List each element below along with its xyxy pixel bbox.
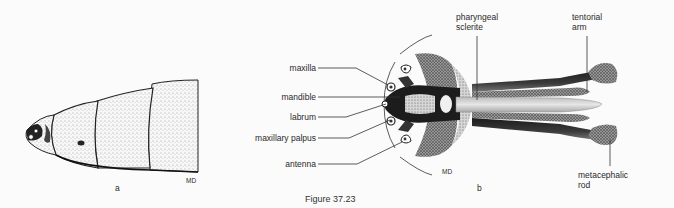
label-pharyngeal-sclerite: pharyngeal sclerite xyxy=(456,12,498,32)
cephalopharyngeal-rods-drawing xyxy=(456,63,617,145)
panel-a-signature: MD xyxy=(186,176,196,186)
label-tentorial-arm: tentorial arm xyxy=(572,12,602,32)
label-maxilla: maxilla xyxy=(290,63,316,73)
label-metacephalic-rod: metacephalic rod xyxy=(578,170,628,190)
panel-b-signature: MD xyxy=(442,167,452,177)
label-antenna: antenna xyxy=(285,159,316,169)
larva-body-drawing xyxy=(26,80,198,172)
label-mandible: mandible xyxy=(282,92,317,102)
panel-a-letter: a xyxy=(115,183,120,193)
label-maxillary-palpus: maxillary palpus xyxy=(255,133,316,143)
label-labrum: labrum xyxy=(290,112,316,122)
figure-caption: Figure 37.23 xyxy=(305,194,356,204)
panel-b-letter: b xyxy=(477,183,482,193)
